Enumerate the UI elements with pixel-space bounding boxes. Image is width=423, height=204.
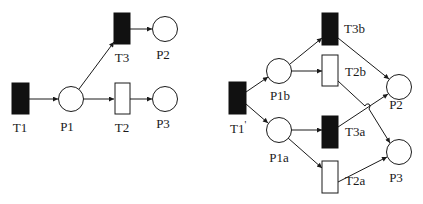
transition-t2a bbox=[322, 161, 338, 193]
transition-t1 bbox=[12, 83, 29, 114]
label-p2: P2 bbox=[156, 47, 170, 62]
left-petri-net: T1 P1 T3 P2 T2 P3 bbox=[12, 13, 178, 135]
label-t3a: T3a bbox=[345, 124, 365, 139]
petri-net-diagram: T1 P1 T3 P2 T2 P3 T1' P1b P1a T bbox=[0, 0, 423, 204]
label-t2: T2 bbox=[115, 120, 129, 135]
transition-t3 bbox=[114, 13, 130, 44]
place-p1b bbox=[267, 59, 292, 84]
arc-t1p-p1a bbox=[246, 104, 268, 123]
label-t3b: T3b bbox=[344, 21, 365, 36]
right-petri-net: T1' P1b P1a T3b T2b T3a T2a P2 P3 bbox=[229, 13, 412, 193]
transition-t2b bbox=[322, 55, 338, 86]
label-p1: P1 bbox=[60, 119, 74, 134]
arc-t1p-p1b bbox=[246, 77, 268, 92]
place-p2-right bbox=[387, 75, 412, 100]
label-p1a: P1a bbox=[269, 150, 289, 165]
label-t1-prime: T1' bbox=[230, 119, 246, 136]
label-t3: T3 bbox=[115, 50, 129, 65]
label-p1b: P1b bbox=[270, 88, 290, 103]
arc-p1a-t2a bbox=[288, 138, 322, 168]
label-t1: T1 bbox=[13, 120, 27, 135]
arc-p1b-t3b bbox=[290, 38, 322, 64]
arc-p1-t3 bbox=[79, 42, 114, 89]
label-p3-right: P3 bbox=[389, 170, 403, 185]
place-p1 bbox=[59, 87, 84, 112]
transition-t3a bbox=[322, 116, 338, 148]
label-t2b: T2b bbox=[345, 64, 366, 79]
transition-t1-prime bbox=[229, 82, 246, 114]
arc-t3a-p2 bbox=[338, 94, 388, 127]
place-p2 bbox=[153, 17, 178, 42]
label-p3: P3 bbox=[156, 116, 170, 131]
label-p2-right: P2 bbox=[389, 97, 403, 112]
place-p3 bbox=[153, 87, 178, 112]
place-p1a bbox=[267, 118, 292, 143]
transition-t2 bbox=[115, 83, 130, 114]
transition-t3b bbox=[322, 13, 338, 45]
label-t2a: T2a bbox=[345, 173, 365, 188]
place-p3-right bbox=[387, 140, 412, 165]
